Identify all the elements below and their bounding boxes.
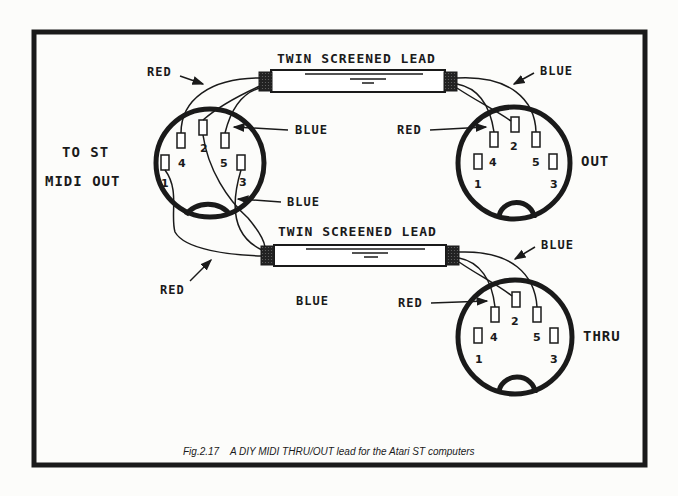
pin-label-5: 5 — [532, 156, 540, 169]
wire-label-red: RED — [397, 123, 422, 137]
pin-label-4: 4 — [489, 156, 497, 169]
pin-label-5: 5 — [533, 331, 541, 344]
pin-label-2: 2 — [510, 140, 518, 153]
pin-label-3: 3 — [550, 178, 558, 191]
lead-label-bottom: TWIN SCREENED LEAD — [278, 224, 437, 239]
pin-label-5: 5 — [220, 157, 228, 170]
figure-caption: Fig.2.17 A DIY MIDI THRU/OUT lead for th… — [183, 446, 475, 457]
wire-label-blue: BLUE — [540, 64, 573, 78]
pin-label-4: 4 — [490, 331, 498, 344]
connector-label-out: OUT — [581, 153, 609, 169]
pin-label-1: 1 — [475, 353, 483, 366]
din-connector-out — [458, 107, 570, 219]
pin-label-1: 1 — [161, 177, 169, 190]
pin-label-3: 3 — [550, 353, 558, 366]
twin-screened-lead-bottom — [261, 245, 459, 266]
pin-label-4: 4 — [178, 157, 186, 170]
connector-label-midi-out: MIDI OUT — [45, 173, 120, 189]
midi-lead-diagram: TWIN SCREENED LEAD TWIN SCREENED LEAD 1 … — [0, 0, 678, 496]
lead-label-top: TWIN SCREENED LEAD — [277, 51, 436, 66]
wire-label-blue: BLUE — [541, 238, 574, 252]
pin-label-3: 3 — [239, 176, 247, 189]
wires-out — [457, 78, 536, 132]
connector-label-to-st: TO ST — [62, 144, 109, 160]
twin-screened-lead-top — [259, 70, 457, 92]
pin-label-1: 1 — [474, 178, 482, 191]
pin-label-2: 2 — [511, 315, 519, 328]
din-connector-thru — [458, 280, 572, 394]
wire-label-blue: BLUE — [287, 195, 320, 209]
wire-label-red: RED — [398, 296, 423, 310]
wire-label-red: RED — [147, 65, 172, 79]
connector-label-thru: THRU — [583, 328, 621, 344]
wire-label-blue: BLUE — [296, 294, 329, 308]
wire-label-red: RED — [160, 283, 185, 297]
wire-label-blue: BLUE — [295, 123, 328, 137]
